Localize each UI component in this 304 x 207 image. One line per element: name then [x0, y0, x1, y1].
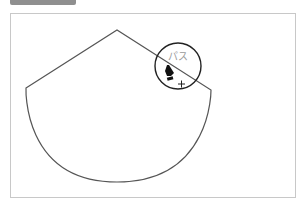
plus-icon: [178, 81, 185, 88]
pen-tool-icon: [165, 65, 174, 81]
path-tooltip: パス: [168, 48, 188, 63]
drawing-canvas[interactable]: [0, 0, 304, 207]
